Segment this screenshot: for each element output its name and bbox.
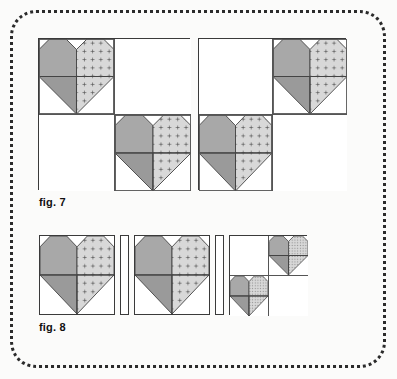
heart-icon (115, 115, 191, 191)
fig7-left-quadrant-bottom-left (39, 115, 115, 191)
fig8-heart-block-2 (134, 235, 210, 315)
fig8-quadrant-bottom-right (269, 276, 308, 316)
figure-7: fig. 7 (0, 0, 397, 215)
heart-icon (230, 276, 268, 316)
fig7-left-quadrant-bottom-right (115, 115, 191, 191)
fig7-block-left (38, 38, 190, 190)
heart-icon (269, 236, 308, 275)
fig7-right-quadrant-top-right (273, 39, 347, 115)
fig8-four-patch-block (229, 235, 307, 315)
fig8-label: fig. 8 (39, 321, 66, 333)
fig8-sashing-strip-1 (120, 235, 129, 315)
fig8-quadrant-bottom-left (230, 276, 269, 316)
fig7-right-quadrant-top-left (199, 39, 273, 115)
fig7-block-right (198, 38, 346, 190)
heart-icon (199, 115, 272, 191)
figure-8: fig. 8 (0, 215, 397, 379)
fig7-right-quadrant-bottom-right (273, 115, 347, 191)
heart-icon (40, 236, 114, 314)
heart-icon (39, 39, 114, 114)
fig7-left-quadrant-top-left (39, 39, 115, 115)
figure-page: fig. 7 (0, 0, 397, 379)
fig7-left-quadrant-top-right (115, 39, 191, 115)
fig7-right-quadrant-bottom-left (199, 115, 273, 191)
fig8-sashing-strip-2 (215, 235, 224, 315)
fig8-quadrant-top-right (269, 236, 308, 276)
fig8-quadrant-top-left (230, 236, 269, 276)
heart-icon (135, 236, 209, 314)
fig7-label: fig. 7 (39, 196, 66, 208)
heart-icon (273, 39, 347, 114)
fig8-heart-block-1 (39, 235, 115, 315)
